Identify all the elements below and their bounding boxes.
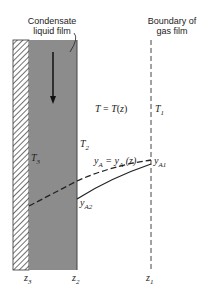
solid-wall [13, 40, 29, 270]
diagram-canvas [0, 0, 211, 297]
mole-fraction-equation: yA = yA (z) [94, 155, 136, 169]
mole-fraction-profile [77, 164, 151, 199]
boundary-label: Boundary of gas film [140, 16, 204, 36]
temperature-equation: T = T(z) [95, 103, 127, 114]
T2-label: T2 [80, 138, 89, 152]
film-label: Condensate liquid film [22, 16, 82, 36]
yA2-label: yA2 [80, 197, 92, 211]
T3-label: T3 [31, 152, 40, 166]
z3-label: z3 [24, 272, 31, 286]
yA1-label: yA1 [154, 155, 166, 169]
z2-label: z2 [72, 272, 79, 286]
z1-label: z1 [146, 272, 153, 286]
T1-label: T1 [155, 103, 164, 117]
